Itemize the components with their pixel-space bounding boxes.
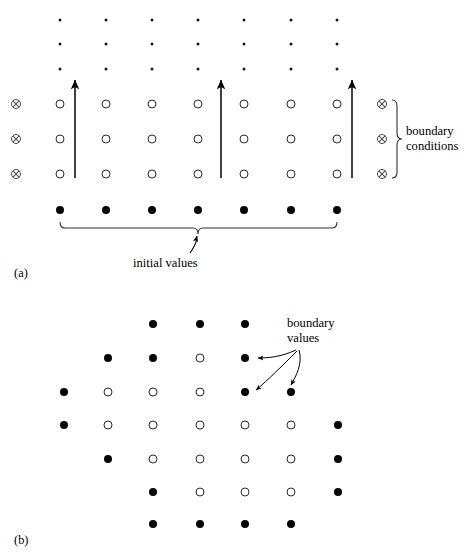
grid-dot-r2-c5 bbox=[290, 68, 293, 71]
grid-dot-r0-c2 bbox=[151, 19, 154, 22]
grid-dot-r2-c1 bbox=[105, 68, 108, 71]
grid-open-node-r2-c1 bbox=[102, 170, 111, 179]
boundary-value-node-r3-c6 bbox=[334, 421, 342, 429]
boundary-value-node-r4-c6 bbox=[334, 455, 342, 463]
boundary-value-node-r6-c4 bbox=[241, 520, 249, 528]
boundary-value-node-r6-c5 bbox=[287, 520, 295, 528]
boundary-value-node-r1-c2 bbox=[149, 354, 157, 362]
interior-node-r3-c5 bbox=[287, 421, 296, 430]
interior-node-r5-c5 bbox=[287, 488, 296, 497]
grid-dot-r1-c4 bbox=[243, 43, 246, 46]
interior-node-r3-c2 bbox=[149, 421, 158, 430]
grid-open-node-r0-c0 bbox=[56, 100, 65, 109]
boundary-condition-marker-left-r1 bbox=[11, 134, 21, 144]
grid-open-node-r0-c6 bbox=[333, 100, 342, 109]
boundary-value-node-r3-c0 bbox=[60, 421, 68, 429]
interior-node-r5-c3 bbox=[196, 488, 205, 497]
grid-dot-r0-c3 bbox=[197, 19, 200, 22]
interior-node-r3-c3 bbox=[196, 421, 205, 430]
boundary-value-node-r6-c2 bbox=[149, 520, 157, 528]
grid-open-node-r2-c4 bbox=[240, 170, 249, 179]
grid-dot-r0-c4 bbox=[243, 19, 246, 22]
interior-node-r4-c5 bbox=[287, 455, 296, 464]
initial-value-node-c2 bbox=[148, 206, 156, 214]
grid-open-node-r1-c3 bbox=[194, 135, 203, 144]
grid-dot-r0-c6 bbox=[336, 19, 339, 22]
interior-node-r4-c2 bbox=[149, 455, 158, 464]
grid-open-node-r0-c5 bbox=[287, 100, 296, 109]
interior-node-r4-c3 bbox=[196, 455, 205, 464]
boundary-value-node-r1-c4 bbox=[241, 354, 249, 362]
grid-dot-r2-c3 bbox=[197, 68, 200, 71]
grid-dot-r1-c3 bbox=[197, 43, 200, 46]
boundary-value-node-r0-c2 bbox=[149, 320, 157, 328]
initial-values-leader-arrow bbox=[190, 236, 197, 253]
grid-open-node-r2-c3 bbox=[194, 170, 203, 179]
interior-node-r3-c4 bbox=[241, 421, 250, 430]
panel-b-tag: (b) bbox=[14, 533, 28, 548]
grid-open-node-r2-c5 bbox=[287, 170, 296, 179]
boundary-value-node-r1-c1 bbox=[104, 354, 112, 362]
boundary-values-label: boundary values bbox=[287, 316, 335, 347]
boundary-value-node-r0-c4 bbox=[241, 320, 249, 328]
boundary-value-node-r5-c2 bbox=[149, 488, 157, 496]
grid-dot-r0-c1 bbox=[105, 19, 108, 22]
boundary-condition-marker-right-r1 bbox=[377, 134, 387, 144]
grid-open-node-r1-c4 bbox=[240, 135, 249, 144]
grid-open-node-r0-c4 bbox=[240, 100, 249, 109]
interior-node-r2-c3 bbox=[196, 388, 205, 397]
initial-value-node-c3 bbox=[194, 206, 202, 214]
interior-node-r5-c4 bbox=[241, 488, 250, 497]
grid-open-node-r0-c2 bbox=[148, 100, 157, 109]
interior-node-r2-c2 bbox=[149, 388, 158, 397]
initial-value-node-c4 bbox=[240, 206, 248, 214]
initial-values-brace bbox=[60, 222, 337, 234]
initial-value-node-c6 bbox=[333, 206, 341, 214]
boundary-value-node-r2-c0 bbox=[60, 388, 68, 396]
grid-open-node-r2-c2 bbox=[148, 170, 157, 179]
boundary-values-leader-arrow-2 bbox=[256, 351, 297, 390]
initial-value-node-c0 bbox=[56, 206, 64, 214]
boundary-value-node-r2-c5 bbox=[287, 388, 295, 396]
boundary-condition-marker-left-r0 bbox=[11, 99, 21, 109]
grid-dot-r0-c0 bbox=[59, 19, 62, 22]
boundary-value-node-r5-c6 bbox=[334, 488, 342, 496]
grid-open-node-r1-c6 bbox=[333, 135, 342, 144]
grid-dot-r1-c0 bbox=[59, 43, 62, 46]
initial-value-node-c1 bbox=[102, 206, 110, 214]
boundary-conditions-label: boundary conditions bbox=[406, 124, 458, 155]
grid-dot-r1-c1 bbox=[105, 43, 108, 46]
boundary-condition-marker-left-r2 bbox=[11, 169, 21, 179]
figure-canvas: boundary conditions initial values bound… bbox=[0, 0, 474, 557]
grid-dot-r2-c0 bbox=[59, 68, 62, 71]
grid-dot-r2-c4 bbox=[243, 68, 246, 71]
interior-node-r1-c3 bbox=[196, 354, 205, 363]
grid-dot-r2-c2 bbox=[151, 68, 154, 71]
grid-open-node-r2-c0 bbox=[56, 170, 65, 179]
interior-node-r4-c4 bbox=[241, 455, 250, 464]
grid-dot-r1-c6 bbox=[336, 43, 339, 46]
grid-dot-r2-c6 bbox=[336, 68, 339, 71]
grid-dot-r1-c5 bbox=[290, 43, 293, 46]
boundary-value-node-r2-c4 bbox=[241, 388, 249, 396]
boundary-value-node-r6-c3 bbox=[196, 520, 204, 528]
interior-node-r3-c1 bbox=[104, 421, 113, 430]
initial-value-node-c5 bbox=[287, 206, 295, 214]
boundary-condition-marker-right-r0 bbox=[377, 99, 387, 109]
boundary-value-node-r4-c1 bbox=[104, 455, 112, 463]
interior-node-r2-c1 bbox=[104, 388, 113, 397]
boundary-condition-marker-right-r2 bbox=[377, 169, 387, 179]
vector-annotation-layer bbox=[0, 0, 474, 557]
grid-open-node-r1-c0 bbox=[56, 135, 65, 144]
grid-open-node-r1-c2 bbox=[148, 135, 157, 144]
boundary-conditions-brace bbox=[392, 100, 402, 178]
grid-dot-r0-c5 bbox=[290, 19, 293, 22]
boundary-value-node-r0-c3 bbox=[196, 320, 204, 328]
initial-values-label: initial values bbox=[133, 256, 198, 271]
grid-open-node-r2-c6 bbox=[333, 170, 342, 179]
grid-open-node-r1-c5 bbox=[287, 135, 296, 144]
grid-dot-r1-c2 bbox=[151, 43, 154, 46]
grid-open-node-r1-c1 bbox=[102, 135, 111, 144]
grid-open-node-r0-c1 bbox=[102, 100, 111, 109]
panel-a-tag: (a) bbox=[14, 266, 28, 281]
